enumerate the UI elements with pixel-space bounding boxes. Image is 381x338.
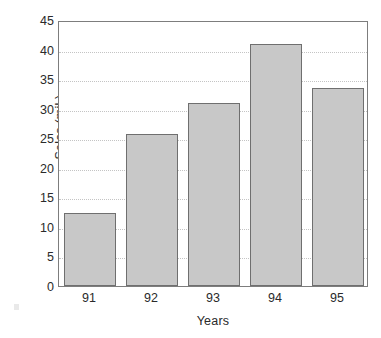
bar	[64, 213, 116, 286]
bar-chart-figure: Sales (mil.) 051015202530354045 91929394…	[0, 0, 381, 338]
y-tick-label: 30	[28, 103, 54, 116]
bar	[250, 44, 302, 286]
x-tick-label: 92	[144, 292, 158, 305]
y-tick-label: 10	[28, 222, 54, 235]
bar	[312, 88, 364, 286]
y-tick-label: 35	[28, 74, 54, 87]
plot-area	[58, 21, 368, 287]
y-tick-label: 20	[28, 163, 54, 176]
y-tick-label: 45	[28, 15, 54, 28]
bar	[126, 134, 178, 286]
x-tick-label: 91	[82, 292, 96, 305]
x-axis-title: Years	[58, 314, 368, 328]
y-tick-label: 0	[28, 281, 54, 294]
x-axis-tick-labels: 9192939495	[58, 292, 368, 310]
x-tick-label: 94	[268, 292, 282, 305]
x-tick-label: 93	[206, 292, 220, 305]
bar	[188, 103, 240, 286]
x-tick-label: 95	[330, 292, 344, 305]
y-axis-tick-labels: 051015202530354045	[28, 21, 54, 287]
y-tick-label: 5	[28, 251, 54, 264]
y-tick-label: 40	[28, 44, 54, 57]
y-tick-label: 25	[28, 133, 54, 146]
y-tick-label: 15	[28, 192, 54, 205]
bars-layer	[59, 22, 367, 286]
scan-artifact	[14, 304, 19, 310]
